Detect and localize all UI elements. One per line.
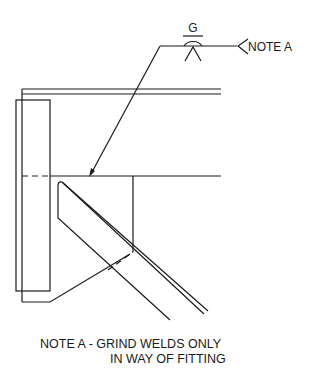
bottom-chamfer-line (22, 254, 130, 302)
note-text: NOTE A - GRIND WELDS ONLY IN WAY OF FITT… (40, 337, 226, 366)
note-line-1: NOTE A - GRIND WELDS ONLY (40, 337, 222, 351)
leader-line (92, 46, 160, 172)
brace-lower-line (58, 186, 170, 320)
weld-detail-drawing: G NOTE A NOTE A - GRIND WELDS ONLY IN WA… (0, 0, 309, 368)
brace-upper-line (58, 182, 204, 314)
tail-icon (238, 39, 248, 54)
brace-upper-line-2 (62, 182, 208, 311)
vertical-plate (16, 100, 50, 291)
note-line-2: IN WAY OF FITTING (110, 352, 226, 366)
convex-contour-symbol (184, 41, 202, 46)
finish-letter: G (188, 21, 197, 35)
reference-note: NOTE A (248, 40, 292, 54)
fillet-weld-arrow-side-icon (185, 47, 201, 61)
weld-symbol: G NOTE A (89, 21, 292, 177)
